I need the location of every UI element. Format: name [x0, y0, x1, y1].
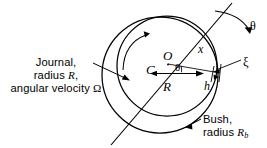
- bush-label: Bush, radius Rb: [203, 113, 267, 141]
- bush-radius-subscript: b: [244, 131, 248, 140]
- journal-radius-suffix: ,: [75, 69, 78, 81]
- h-gap-tick-journal: [211, 66, 214, 82]
- label-film-thickness-h: h: [204, 79, 210, 94]
- label-xi: ξ: [243, 55, 249, 70]
- xi-leader-line: [216, 60, 241, 70]
- theta-circumferential-arc: [215, 11, 249, 30]
- bush-leader-line: [188, 119, 201, 126]
- point-C: [155, 73, 157, 75]
- label-theta-center: θ: [175, 61, 180, 73]
- journal-bearing-figure: Journal, radius R, angular velocity Ω Bu…: [0, 0, 267, 148]
- journal-label-line3: angular velocity Ω: [2, 82, 110, 95]
- label-theta-outer: θ: [250, 19, 256, 34]
- journal-label: Journal, radius R, angular velocity Ω: [2, 56, 110, 96]
- omega-symbol: Ω: [93, 82, 101, 94]
- bush-label-line2: radius Rb: [203, 126, 267, 141]
- bush-radius-prefix: radius: [203, 126, 237, 138]
- bush-label-line1: Bush,: [203, 113, 267, 126]
- theta-angle-arc: [181, 66, 182, 73]
- rotation-arrowhead: [144, 31, 150, 37]
- journal-label-line2: radius R,: [2, 69, 110, 82]
- rotation-arc: [123, 35, 146, 70]
- journal-omega-prefix: angular velocity: [11, 82, 94, 94]
- journal-radius-prefix: radius: [34, 69, 68, 81]
- label-bush-center-C: C: [146, 62, 155, 78]
- radius-arrowhead: [196, 70, 204, 76]
- label-journal-center-O: O: [163, 48, 172, 64]
- journal-radius-symbol: R: [68, 69, 75, 81]
- journal-circle: [117, 16, 217, 116]
- label-radius-R: R: [163, 79, 171, 95]
- journal-leader-arrowhead: [122, 75, 130, 81]
- label-coordinate-x: x: [198, 42, 203, 57]
- journal-label-line1: Journal,: [2, 56, 110, 69]
